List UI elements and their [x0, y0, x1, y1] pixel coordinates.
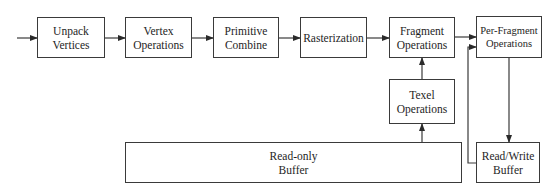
rasterization-box: Rasterization — [300, 17, 367, 58]
primitive-combine-box: Primitive Combine — [213, 17, 279, 58]
arrow-readwrite-to-perfragment — [468, 47, 476, 163]
per-fragment-operations-box: Per-Fragment Operations — [476, 16, 542, 58]
read-write-buffer-box: Read/Write Buffer — [476, 142, 540, 183]
unpack-vertices-box: Unpack Vertices — [37, 17, 105, 58]
fragment-operations-box: Fragment Operations — [389, 17, 455, 58]
vertex-operations-box: Vertex Operations — [125, 17, 192, 58]
texel-operations-box: Texel Operations — [389, 79, 455, 124]
read-only-buffer-box: Read-only Buffer — [125, 142, 462, 183]
